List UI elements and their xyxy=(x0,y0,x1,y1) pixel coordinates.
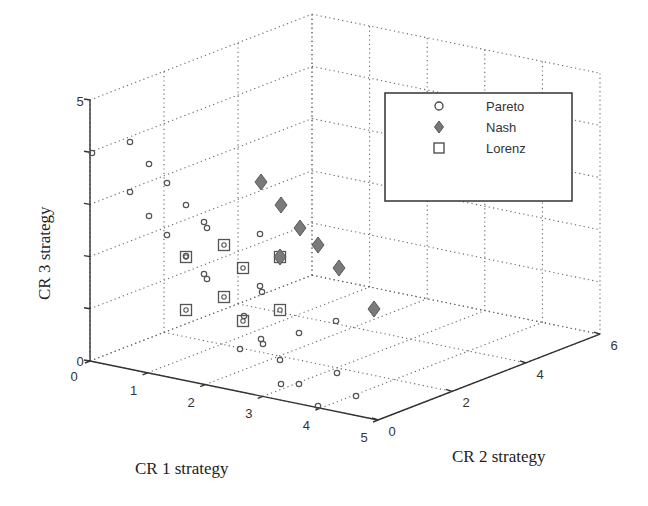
pareto-point xyxy=(241,266,245,270)
x-tick-mark xyxy=(258,396,263,398)
pareto-point xyxy=(257,283,262,288)
legend-label-nash: Nash xyxy=(486,120,516,135)
pareto-point xyxy=(241,319,245,323)
y-tick-label: 2 xyxy=(462,395,469,410)
grid-line xyxy=(312,14,600,73)
z-tick-label: 0 xyxy=(76,354,83,369)
pareto-point xyxy=(201,219,206,224)
y-axis-line xyxy=(378,334,600,420)
pareto-point xyxy=(296,330,301,335)
pareto-point xyxy=(278,381,283,386)
x-tick-mark xyxy=(143,373,148,375)
x-axis-label: CR 1 strategy xyxy=(135,459,229,478)
x-tick-label: 3 xyxy=(245,406,252,421)
z-tick-mark xyxy=(84,203,90,204)
pareto-point xyxy=(184,308,188,312)
z-axis-label: CR 3 strategy xyxy=(35,206,54,300)
pareto-point xyxy=(237,346,242,351)
x-tick-label: 0 xyxy=(70,369,77,384)
pareto-point xyxy=(127,189,132,194)
y-axis-label: CR 2 strategy xyxy=(452,447,546,466)
scatter-3d-chart: 012345024605 CR 1 strategy CR 2 strategy… xyxy=(0,0,648,506)
grid-line xyxy=(90,14,312,100)
lorenz-point xyxy=(219,240,230,251)
grid-line xyxy=(90,275,312,361)
grid-line xyxy=(148,287,370,373)
legend-box xyxy=(385,93,572,201)
grid-line xyxy=(90,66,312,152)
nash-point xyxy=(275,197,287,213)
grid-line xyxy=(312,275,600,334)
pareto-point xyxy=(204,225,209,230)
grid-line xyxy=(90,223,312,309)
pareto-point xyxy=(183,202,188,207)
pareto-point xyxy=(204,276,209,281)
z-tick-mark xyxy=(84,99,90,100)
y-tick-mark xyxy=(594,332,600,334)
grid-line xyxy=(164,332,452,391)
y-tick-mark xyxy=(372,418,378,420)
grid-line xyxy=(90,171,312,257)
pareto-point xyxy=(353,393,358,398)
grid-line xyxy=(312,223,600,282)
nash-point xyxy=(294,220,306,236)
pareto-point xyxy=(164,180,169,185)
grid-line xyxy=(90,119,312,205)
grid-line xyxy=(238,304,526,363)
pareto-point xyxy=(222,243,226,247)
nash-point xyxy=(255,174,267,190)
y-tick-mark xyxy=(446,389,452,391)
z-tick-label: 5 xyxy=(76,94,83,109)
pareto-point xyxy=(334,370,339,375)
pareto-point xyxy=(278,308,282,312)
pareto-point xyxy=(146,213,151,218)
y-tick-mark xyxy=(520,361,526,363)
y-tick-label: 6 xyxy=(610,338,617,353)
pareto-point xyxy=(260,341,265,346)
legend: Pareto Nash Lorenz xyxy=(385,93,572,201)
y-tick-label: 0 xyxy=(388,424,395,439)
legend-label-lorenz: Lorenz xyxy=(486,141,526,156)
nash-point xyxy=(312,237,324,253)
lorenz-point xyxy=(181,305,192,316)
pareto-point xyxy=(146,161,151,166)
z-tick-mark xyxy=(84,360,90,361)
x-tick-mark xyxy=(200,385,205,387)
legend-label-pareto: Pareto xyxy=(486,99,524,114)
nash-point xyxy=(368,301,380,317)
x-tick-label: 5 xyxy=(360,430,367,445)
pareto-point xyxy=(257,231,262,236)
y-tick-label: 4 xyxy=(536,367,543,382)
lorenz-point xyxy=(238,263,249,274)
x-tick-label: 2 xyxy=(188,395,195,410)
pareto-point xyxy=(277,357,282,362)
lorenz-point xyxy=(219,292,230,303)
grid-line xyxy=(205,299,427,385)
nash-point xyxy=(333,260,345,276)
z-tick-mark xyxy=(84,256,90,257)
pareto-point xyxy=(296,381,301,386)
pareto-point xyxy=(201,271,206,276)
pareto-point xyxy=(164,232,169,237)
data-markers xyxy=(89,139,380,408)
pareto-point xyxy=(333,318,338,323)
grid-lines xyxy=(90,14,600,420)
x-tick-label: 4 xyxy=(303,418,310,433)
x-tick-label: 1 xyxy=(130,383,137,398)
pareto-point xyxy=(127,139,132,144)
z-tick-mark xyxy=(84,308,90,309)
pareto-point xyxy=(259,289,264,294)
lorenz-point xyxy=(275,305,286,316)
pareto-point xyxy=(222,295,226,299)
